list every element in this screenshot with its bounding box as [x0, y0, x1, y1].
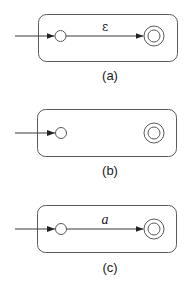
accept-state	[144, 219, 164, 239]
transition-label: a	[102, 212, 109, 227]
accept-state-inner	[148, 127, 160, 139]
nfa-diagram: ε (a) (b) a (c)	[0, 0, 190, 286]
start-state	[56, 224, 67, 235]
panel-b: (b)	[15, 110, 177, 179]
start-state	[56, 128, 67, 139]
panel-caption: (b)	[102, 163, 118, 178]
panel-caption: (a)	[102, 68, 118, 83]
accept-state-inner	[148, 30, 160, 42]
start-state	[55, 31, 66, 42]
accept-state-inner	[148, 223, 160, 235]
accept-state	[144, 26, 164, 46]
transition-label: ε	[102, 20, 108, 34]
accept-state	[144, 123, 164, 143]
panel-c: a (c)	[15, 206, 177, 276]
panel-caption: (c)	[102, 260, 117, 275]
panel-a: ε (a)	[15, 15, 178, 84]
